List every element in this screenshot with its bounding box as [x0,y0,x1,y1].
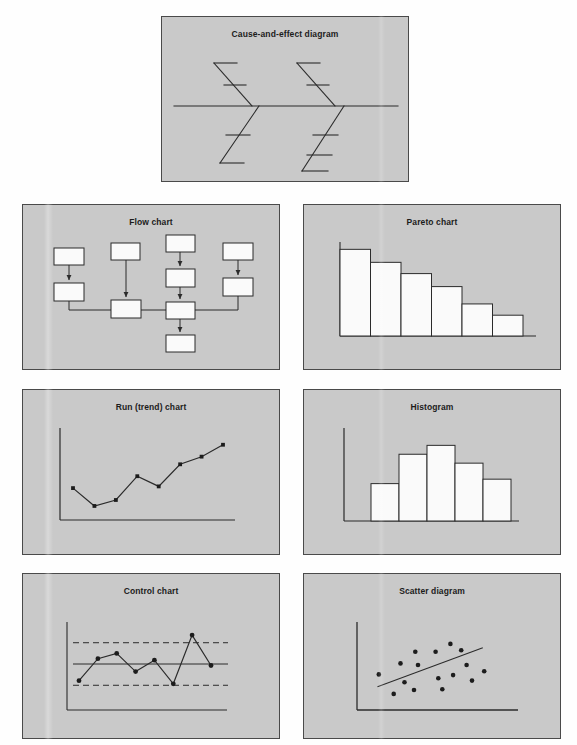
control-data-point [190,633,195,638]
run-data-point [200,455,204,459]
flow-connector [69,301,111,310]
control-data-point [171,681,176,686]
flow-box [166,302,195,319]
figure-page: Cause-and-effect diagram [0,0,577,745]
scatter-point [436,676,441,681]
scatter-point [391,692,396,697]
histogram-bar [455,463,483,521]
control-data-point [152,658,157,663]
scatter-point [412,688,417,693]
control-data-point [77,678,82,683]
run-data-point [114,498,118,502]
flow-box [54,248,84,265]
flow-connector [195,296,238,310]
scatter-diagram-drawing [304,574,562,740]
scatter-point [413,649,418,654]
pareto-chart-drawing [304,205,562,371]
run-data-point [178,462,182,466]
histogram-bar [483,479,511,521]
pareto-bars [340,249,523,336]
flow-box [111,300,141,318]
pareto-bar [493,315,524,336]
pareto-bar [371,262,402,336]
run-data-point [157,485,161,489]
scatter-point [440,687,445,692]
flow-box [166,235,195,252]
run-data-point [93,504,97,508]
control-series-markers [77,633,214,687]
flow-chart-drawing [23,205,281,371]
flow-box [166,335,195,352]
scatter-points [377,642,487,697]
run-data-point [135,474,139,478]
pareto-bar [340,249,371,336]
control-data-point [114,651,119,656]
run-data-point [221,443,225,447]
flow-box [223,243,253,260]
panel-run-trend-chart: Run (trend) chart [22,389,280,555]
histogram-bar [427,445,455,521]
fishbone-drawing [162,17,410,183]
scatter-point [464,663,469,668]
flow-box [54,283,84,301]
scatter-point [398,661,403,666]
run-series-markers [71,443,225,508]
histogram-drawing [304,390,562,556]
flow-box [111,243,140,260]
scatter-point [433,649,438,654]
run-data-point [71,486,75,490]
scatter-point [459,648,464,653]
panel-flow-chart: Flow chart [22,204,280,370]
histogram-bars [371,445,511,521]
histogram-bar [399,454,427,521]
flow-box [223,278,253,296]
panel-histogram: Histogram [303,389,561,555]
control-chart-drawing [23,574,281,740]
scatter-point [470,678,475,683]
pareto-bar [432,287,463,336]
control-data-point [209,663,214,668]
run-chart-drawing [23,390,281,556]
control-data-point [133,669,138,674]
panel-control-chart: Control chart [22,573,280,739]
control-data-point [96,656,101,661]
panel-cause-and-effect-diagram: Cause-and-effect diagram [161,16,409,182]
run-series-line [73,445,223,506]
scatter-point [482,669,487,674]
scatter-point [451,673,456,678]
panel-scatter-diagram: Scatter diagram [303,573,561,739]
scatter-point [416,663,421,668]
scatter-point [448,642,453,647]
fishbone-lower-bone-2 [302,106,344,171]
scatter-trend-line [378,648,483,687]
pareto-bar [401,274,432,336]
pareto-bar [462,304,493,336]
histogram-bar [371,484,399,521]
panel-pareto-chart: Pareto chart [303,204,561,370]
scatter-point [377,672,382,677]
flow-box [166,269,195,287]
scatter-point [402,680,407,685]
